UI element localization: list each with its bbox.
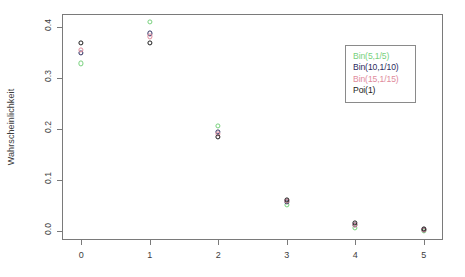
x-tick-mark [287,240,288,245]
y-tick-label: 0.2 [0,122,54,132]
x-tick-mark [81,240,82,245]
x-tick-label: 1 [140,250,160,260]
legend-entry-3: Poi(1) [353,85,409,96]
x-tick-label: 5 [414,250,434,260]
chart-figure: Wahrscheinlichkeit 0.00.10.20.30.4 01234… [0,0,465,277]
data-point [79,61,84,66]
y-tick-label: 0.3 [0,71,54,81]
x-tick-mark [218,240,219,245]
data-point [216,124,221,129]
data-point [147,40,152,45]
data-point [147,19,152,24]
y-tick-label: 0.0 [0,224,54,234]
legend-entry-2: Bin(15,1/15) [353,74,409,85]
data-point [216,134,221,139]
data-point [79,40,84,45]
y-tick-label: 0.4 [0,20,54,30]
x-tick-label: 2 [208,250,228,260]
x-tick-mark [150,240,151,245]
x-tick-mark [424,240,425,245]
y-tick-label: 0.1 [0,173,54,183]
x-tick-mark [355,240,356,245]
legend-entry-0: Bin(5,1/5) [353,51,409,62]
data-point [147,34,152,39]
x-tick-label: 4 [345,250,365,260]
x-tick-label: 0 [71,250,91,260]
x-tick-label: 3 [277,250,297,260]
legend: Bin(5,1/5)Bin(10,1/10)Bin(15,1/15)Poi(1) [345,45,416,103]
legend-entry-1: Bin(10,1/10) [353,62,409,73]
